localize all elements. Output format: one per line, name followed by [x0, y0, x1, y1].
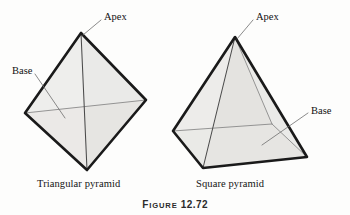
triangular-pyramid-shape	[25, 33, 146, 170]
apex-label-right: Apex	[256, 11, 279, 22]
square-pyramid-apex-callout: Apex	[237, 11, 279, 39]
figure-caption-prefix-rest: IGURE	[149, 201, 178, 210]
apex-label-left: Apex	[104, 11, 127, 22]
base-label-right: Base	[311, 105, 332, 116]
triangular-pyramid-caption: Triangular pyramid	[37, 178, 120, 189]
square-pyramid-caption: Square pyramid	[196, 178, 264, 189]
figure-container: Apex Base	[0, 0, 350, 215]
apex-leader-line-left	[83, 20, 101, 35]
figure-caption: FIGURE 12.72	[0, 199, 350, 210]
figure-caption-number: 12.72	[181, 199, 208, 210]
apex-leader-line-right	[237, 20, 253, 39]
base-label-left: Base	[12, 65, 33, 76]
square-pyramid-shape	[173, 37, 307, 168]
triangular-pyramid-apex-callout: Apex	[83, 11, 127, 35]
triangular-pyramid-face-back	[25, 33, 146, 113]
